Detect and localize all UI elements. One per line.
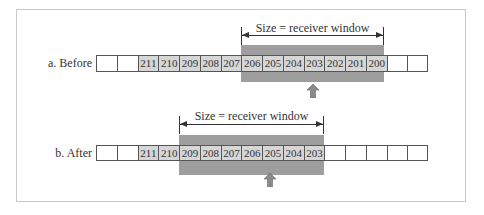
- sequence-cell: 206: [241, 145, 262, 161]
- sequence-cell: 207: [221, 145, 242, 161]
- sequence-cell: 209: [179, 55, 200, 72]
- sequence-cell: 205: [262, 145, 283, 161]
- sequence-cell: 207: [221, 55, 242, 72]
- sequence-cell: 203: [304, 55, 325, 72]
- sequence-cell: [407, 55, 428, 72]
- sequence-cell: 202: [324, 55, 345, 72]
- sequence-cell: 211: [138, 145, 159, 161]
- sequence-cell: 203: [304, 145, 325, 161]
- sequence-cell: 204: [283, 55, 304, 72]
- sequence-cell: 200: [366, 55, 387, 72]
- sequence-cell: 201: [345, 55, 366, 72]
- sequence-cell: 211: [138, 55, 159, 72]
- sequence-cell: [387, 55, 408, 72]
- sequence-cell: [387, 145, 408, 161]
- sequence-cell: 208: [200, 55, 221, 72]
- sequence-cell: 210: [158, 145, 179, 161]
- sequence-cell: [96, 145, 117, 161]
- sequence-cell: 209: [179, 145, 200, 161]
- sequence-cell: 208: [200, 145, 221, 161]
- sequence-cell: [117, 145, 138, 161]
- sequence-cell: [366, 145, 387, 161]
- right-arrowhead-icon: [376, 32, 383, 38]
- sequence-cell: 205: [262, 55, 283, 72]
- before-window-dimension-line: [241, 29, 384, 43]
- sequence-cell: [324, 145, 345, 161]
- sequence-cell: 206: [241, 55, 262, 72]
- before-pointer-arrow-icon: [307, 84, 319, 98]
- sequence-cell: 210: [158, 55, 179, 72]
- sequence-cell: [96, 55, 117, 72]
- after-row-label: b. After: [2, 146, 92, 161]
- after-sequence-row: 211 210 209 208 207 206 205 204 203: [96, 145, 428, 161]
- sequence-cell: [407, 145, 428, 161]
- after-window-dimension-line: [179, 118, 324, 132]
- after-pointer-arrow-icon: [264, 173, 276, 187]
- sequence-cell: [117, 55, 138, 72]
- right-arrowhead-icon: [316, 121, 323, 127]
- sequence-cell: [345, 145, 366, 161]
- sequence-cell: 204: [283, 145, 304, 161]
- before-sequence-row: 211 210 209 208 207 206 205 204 203 202 …: [96, 55, 428, 72]
- left-arrowhead-icon: [180, 121, 187, 127]
- before-row-label: a. Before: [2, 56, 92, 71]
- left-arrowhead-icon: [242, 32, 249, 38]
